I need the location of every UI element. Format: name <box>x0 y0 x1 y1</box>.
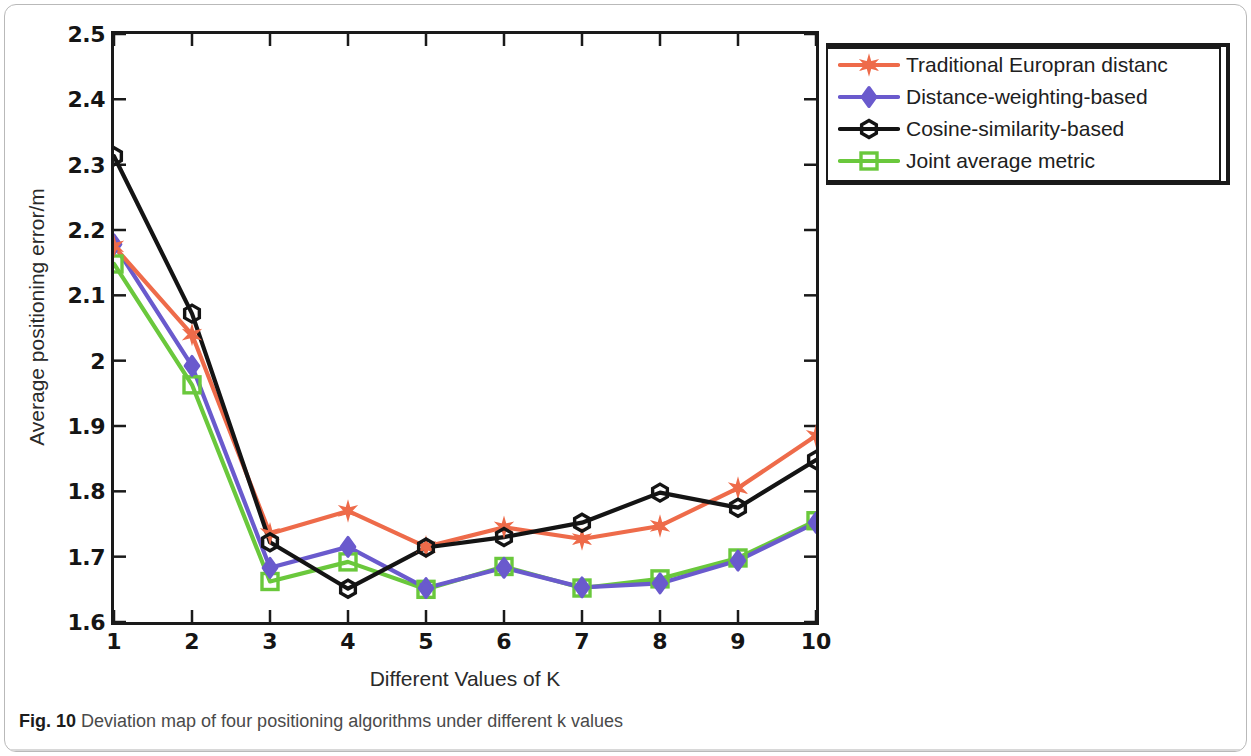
data-point-marker <box>862 88 876 107</box>
x-tick-label: 2 <box>184 629 199 654</box>
y-tick-label: 2 <box>90 348 105 373</box>
legend-swatch-diamond-icon <box>838 84 900 110</box>
legend-label: Joint average metric <box>906 149 1095 173</box>
legend-bracket-right <box>1226 43 1230 185</box>
y-tick-label: 2.3 <box>68 152 105 177</box>
legend-swatch-square-icon <box>838 148 900 174</box>
legend-label: Traditional Europran distanc <box>906 53 1168 77</box>
legend-bracket-bottom <box>1204 181 1230 185</box>
legend-item[interactable]: Traditional Europran distanc <box>838 49 1219 81</box>
figure-number: Fig. 10 <box>19 711 76 731</box>
x-tick-label: 5 <box>418 629 433 654</box>
y-tick-label: 1.6 <box>68 610 105 635</box>
plot-svg <box>114 34 816 622</box>
x-tick-label: 9 <box>730 629 745 654</box>
x-tick-label: 1 <box>106 629 121 654</box>
legend-label: Distance-weighting-based <box>906 85 1148 109</box>
data-point-marker <box>730 479 746 497</box>
legend-swatch-star-icon <box>838 52 900 78</box>
series-line <box>114 156 816 589</box>
legend-swatch-hexagon-icon <box>838 116 900 142</box>
x-tick-label: 4 <box>340 629 355 654</box>
figure-caption-text: Deviation map of four positioning algori… <box>81 711 623 731</box>
x-tick-label: 6 <box>496 629 511 654</box>
legend: Traditional Europran distancDistance-wei… <box>826 43 1221 185</box>
y-tick-label: 1.9 <box>68 414 105 439</box>
legend-item[interactable]: Cosine-similarity-based <box>838 113 1219 145</box>
x-tick-label: 7 <box>574 629 589 654</box>
x-tick-label: 3 <box>262 629 277 654</box>
y-tick-label: 1.7 <box>68 544 105 569</box>
y-axis-title: Average positioning error/m <box>25 117 49 517</box>
x-tick-label: 10 <box>801 629 832 654</box>
y-tick-label: 2.1 <box>68 283 105 308</box>
caption-divider <box>5 749 1247 751</box>
y-tick-label: 2.4 <box>68 87 105 112</box>
y-tick-label: 1.8 <box>68 479 105 504</box>
figure-card: 2.52.42.32.22.121.91.81.71.6 12345678910… <box>4 4 1247 752</box>
x-axis-title: Different Values of K <box>111 667 819 691</box>
y-tick-label: 2.5 <box>68 22 105 47</box>
axis-ticks <box>114 34 816 622</box>
legend-label: Cosine-similarity-based <box>906 117 1124 141</box>
chart-area: 2.52.42.32.22.121.91.81.71.6 12345678910… <box>5 5 1247 705</box>
figure-caption: Fig. 10 Deviation map of four positionin… <box>19 711 1229 732</box>
legend-item[interactable]: Distance-weighting-based <box>838 81 1219 113</box>
x-tick-label: 8 <box>652 629 667 654</box>
x-axis-tick-labels: 12345678910 <box>111 629 819 663</box>
legend-item[interactable]: Joint average metric <box>838 145 1219 177</box>
plot-frame <box>111 31 819 625</box>
y-tick-label: 2.2 <box>68 218 105 243</box>
